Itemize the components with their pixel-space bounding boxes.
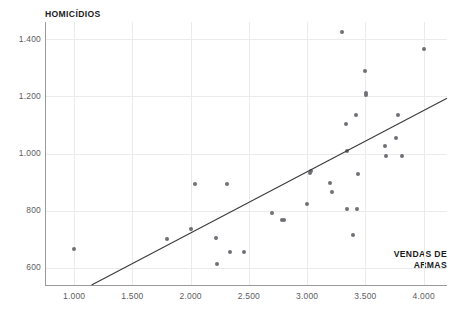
gridline-horizontal <box>45 39 447 40</box>
x-axis-line <box>45 285 447 286</box>
y-axis-tick-labels: 6008001.0001.2001.400 <box>0 0 41 311</box>
x-tick-label: 2.500 <box>227 291 271 301</box>
gridline-vertical <box>249 22 250 285</box>
x-tick-label: 3.000 <box>285 291 329 301</box>
y-tick-label: 600 <box>5 262 41 272</box>
data-point <box>356 172 360 176</box>
data-point <box>215 262 219 266</box>
data-point <box>242 250 246 254</box>
gridline-vertical <box>191 22 192 285</box>
data-point <box>363 69 367 73</box>
y-tick-label: 800 <box>5 205 41 215</box>
data-point <box>364 91 368 95</box>
scatter-chart: HOMICÍDIOS VENDAS DE ARMAS 6008001.0001.… <box>0 0 456 311</box>
gridline-vertical <box>74 22 75 285</box>
plot-area <box>45 22 447 285</box>
data-point <box>340 30 344 34</box>
y-tick-label: 1.400 <box>5 34 41 44</box>
data-point <box>305 202 309 206</box>
data-point <box>72 247 76 251</box>
data-point <box>396 113 400 117</box>
y-tick-label: 1.200 <box>5 91 41 101</box>
data-point <box>351 233 355 237</box>
gridline-vertical <box>307 22 308 285</box>
data-point <box>330 190 334 194</box>
data-point <box>225 182 229 186</box>
data-point <box>189 227 193 231</box>
data-point <box>228 250 232 254</box>
gridline-horizontal <box>45 96 447 97</box>
gridline-horizontal <box>45 211 447 212</box>
data-point <box>422 47 426 51</box>
x-tick-label: 2.000 <box>169 291 213 301</box>
y-axis-title: HOMICÍDIOS <box>45 9 101 19</box>
data-point <box>344 122 348 126</box>
y-axis-line <box>45 22 46 285</box>
x-tick-label: 1.500 <box>110 291 154 301</box>
data-point <box>383 144 387 148</box>
data-point <box>354 113 358 117</box>
data-point <box>193 182 197 186</box>
gridline-vertical <box>132 22 133 285</box>
data-point <box>282 218 286 222</box>
data-point <box>400 154 404 158</box>
data-point <box>270 211 274 215</box>
x-tick-label: 3.500 <box>343 291 387 301</box>
y-tick-label: 1.000 <box>5 148 41 158</box>
data-point <box>394 136 398 140</box>
data-point <box>345 207 349 211</box>
gridline-horizontal <box>45 268 447 269</box>
data-point <box>309 169 313 173</box>
x-tick-label: 4.000 <box>402 291 446 301</box>
data-point <box>328 181 332 185</box>
x-tick-label: 1.000 <box>52 291 96 301</box>
data-point <box>214 236 218 240</box>
gridline-vertical <box>365 22 366 285</box>
data-point <box>165 237 169 241</box>
data-point <box>384 154 388 158</box>
gridline-vertical <box>424 22 425 285</box>
